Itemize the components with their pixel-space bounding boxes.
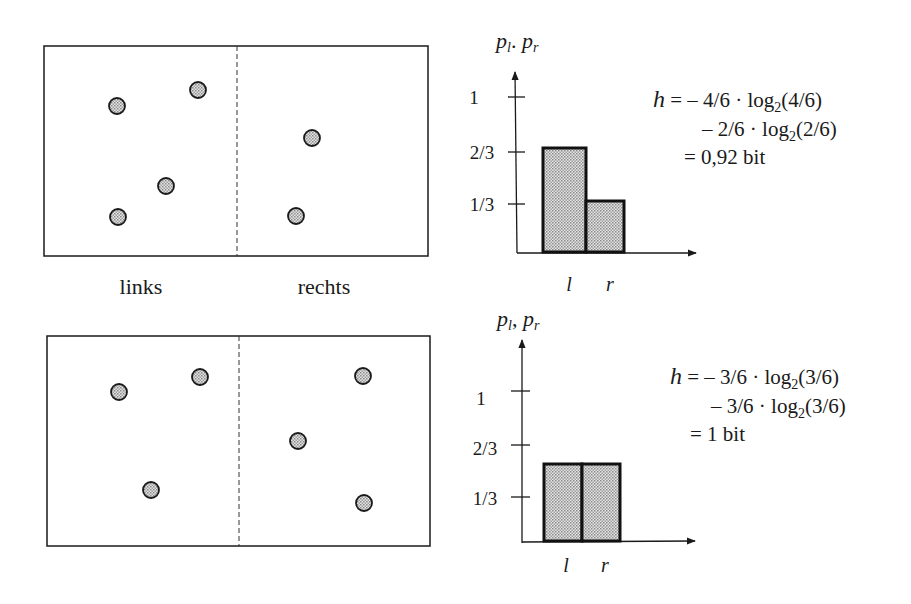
x-label-l: l [563, 554, 569, 576]
bar-l [543, 148, 586, 252]
top-panel: links rechts pl. pr 1 2/3 1/3 l r h = – … [44, 28, 837, 299]
bar-l [544, 464, 582, 541]
dots-right [290, 368, 372, 511]
svg-text:– 3/6 · log2(3/6): – 3/6 · log2(3/6) [710, 394, 846, 421]
y-axis-title: pl. pr [494, 28, 539, 55]
tick-label-2-3: 2/3 [473, 438, 497, 459]
tick-label-2-3: 2/3 [470, 142, 494, 163]
bottom-entropy-formula: h = – 3/6 · log2(3/6) – 3/6 · log2(3/6) … [670, 363, 846, 446]
svg-text:h = – 3/6 · log2(3/6): h = – 3/6 · log2(3/6) [670, 363, 839, 392]
svg-text:h = – 4/6 · log2(4/6): h = – 4/6 · log2(4/6) [653, 86, 822, 115]
tick-label-1: 1 [476, 388, 486, 409]
bottom-bar-chart: pl, pr 1 2/3 1/3 l r [473, 306, 695, 576]
bar-r [586, 201, 624, 252]
entropy-diagram: links rechts pl. pr 1 2/3 1/3 l r h = – … [0, 0, 911, 604]
label-links: links [120, 274, 163, 299]
x-label-r: r [601, 554, 609, 576]
y-axis-title: pl, pr [495, 306, 540, 333]
entropy-result: = 0,92 bit [684, 145, 765, 169]
dots-left [111, 369, 208, 498]
tick-label-1-3: 1/3 [470, 194, 494, 215]
entropy-result: = 1 bit [690, 422, 745, 446]
x-label-l: l [566, 273, 572, 295]
dots-right [288, 130, 320, 224]
bar-r [582, 464, 620, 541]
y-axis [515, 72, 517, 253]
top-bar-chart: pl. pr 1 2/3 1/3 l r [469, 28, 696, 295]
tick-label-1: 1 [469, 87, 479, 108]
bottom-panel: pl, pr 1 2/3 1/3 l r h = – 3/6 · log2(3/… [47, 306, 846, 576]
bottom-sample-box [47, 336, 430, 546]
top-entropy-formula: h = – 4/6 · log2(4/6) – 2/6 · log2(2/6) … [653, 86, 837, 169]
dots-left [109, 82, 206, 225]
label-rechts: rechts [298, 274, 351, 299]
tick-label-1-3: 1/3 [473, 488, 497, 509]
top-sample-box [44, 46, 428, 256]
svg-text:– 2/6 · log2(2/6): – 2/6 · log2(2/6) [701, 117, 837, 144]
x-label-r: r [606, 273, 614, 295]
